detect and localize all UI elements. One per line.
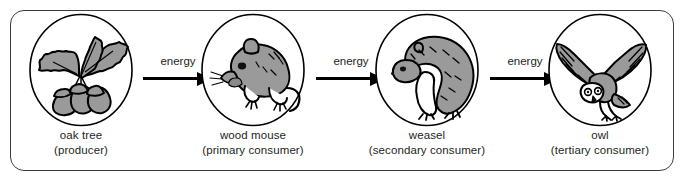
wood-mouse-labels: wood mouse (primary consumer): [178, 128, 328, 158]
stage-oak-tree: oak tree (producer): [6, 14, 156, 169]
stage-weasel: weasel (secondary consumer): [352, 14, 502, 169]
stage-name: owl: [525, 128, 675, 143]
stage-name: wood mouse: [178, 128, 328, 143]
weasel-circle: [375, 14, 479, 126]
owl-labels: owl (tertiary consumer): [525, 128, 675, 158]
food-chain-diagram: oak tree (producer) energy: [0, 0, 687, 183]
stage-name: weasel: [352, 128, 502, 143]
oak-tree-circle: [29, 14, 133, 126]
stage-role: (producer): [6, 143, 156, 158]
stage-role: (tertiary consumer): [525, 143, 675, 158]
weasel-labels: weasel (secondary consumer): [352, 128, 502, 158]
stage-role: (secondary consumer): [352, 143, 502, 158]
owl-circle: [548, 14, 652, 126]
stage-name: oak tree: [6, 128, 156, 143]
stage-owl: owl (tertiary consumer): [525, 14, 675, 169]
wood-mouse-circle: [201, 14, 305, 126]
oak-tree-labels: oak tree (producer): [6, 128, 156, 158]
stage-role: (primary consumer): [178, 143, 328, 158]
stage-wood-mouse: wood mouse (primary consumer): [178, 14, 328, 169]
